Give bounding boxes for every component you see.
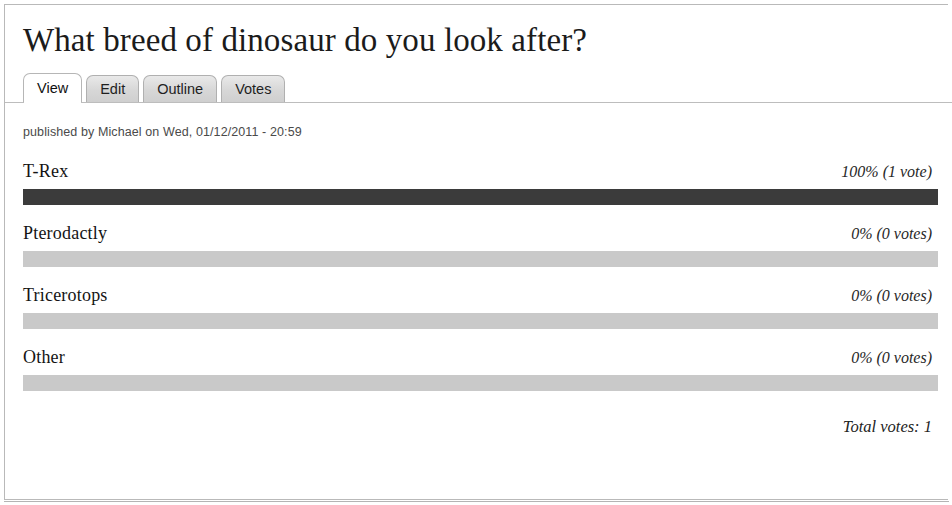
tab-outline-label: Outline <box>157 81 203 97</box>
poll-row-header: Pterodactly 0% (0 votes) <box>23 223 938 245</box>
poll-option-stat: 0% (0 votes) <box>851 287 938 305</box>
total-votes: Total votes: 1 <box>23 417 938 437</box>
poll-option-stat: 100% (1 vote) <box>841 163 938 181</box>
tab-bar: View Edit Outline Votes <box>23 70 938 103</box>
poll-option-stat: 0% (0 votes) <box>851 225 938 243</box>
poll-option-label: Other <box>23 347 65 368</box>
poll-row-header: T-Rex 100% (1 vote) <box>23 161 938 183</box>
poll-row-header: Other 0% (0 votes) <box>23 347 938 369</box>
page-content: What breed of dinosaur do you look after… <box>5 5 948 499</box>
poll-option-bar <box>23 189 938 205</box>
poll-row: Tricerotops 0% (0 votes) <box>23 285 938 329</box>
poll-option-bar <box>23 251 938 267</box>
poll-page-frame: What breed of dinosaur do you look after… <box>4 4 948 500</box>
poll-option-label: T-Rex <box>23 161 68 182</box>
tab-edit[interactable]: Edit <box>86 75 139 102</box>
tab-votes[interactable]: Votes <box>221 75 285 102</box>
poll-row: Other 0% (0 votes) <box>23 347 938 391</box>
byline: published by Michael on Wed, 01/12/2011 … <box>23 125 938 139</box>
page-title: What breed of dinosaur do you look after… <box>23 5 938 60</box>
tab-outline[interactable]: Outline <box>143 75 217 102</box>
poll-option-bar <box>23 375 938 391</box>
poll-option-stat: 0% (0 votes) <box>851 349 938 367</box>
poll-row: Pterodactly 0% (0 votes) <box>23 223 938 267</box>
poll-results: T-Rex 100% (1 vote) Pterodactly 0% (0 vo… <box>23 161 938 437</box>
tab-edit-label: Edit <box>100 81 125 97</box>
tab-bar-rule <box>5 102 952 103</box>
tab-view[interactable]: View <box>23 73 82 102</box>
poll-option-label: Tricerotops <box>23 285 108 306</box>
poll-option-bar-fill <box>23 189 938 205</box>
tab-votes-label: Votes <box>235 81 271 97</box>
tab-view-label: View <box>37 80 68 96</box>
poll-option-bar <box>23 313 938 329</box>
poll-row-header: Tricerotops 0% (0 votes) <box>23 285 938 307</box>
tab-list: View Edit Outline Votes <box>23 70 938 102</box>
poll-option-label: Pterodactly <box>23 223 107 244</box>
page-bottom-rule <box>4 501 949 502</box>
poll-row: T-Rex 100% (1 vote) <box>23 161 938 205</box>
